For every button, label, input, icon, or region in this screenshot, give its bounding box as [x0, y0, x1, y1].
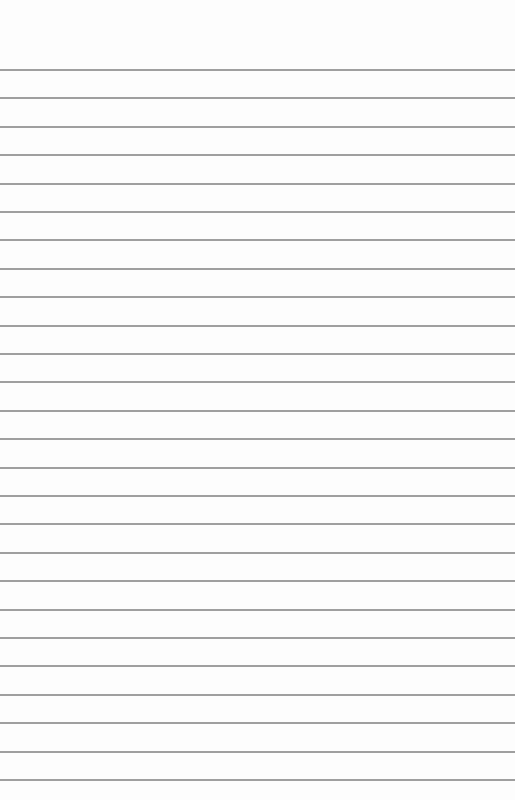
- ruled-line: [0, 410, 515, 412]
- lined-paper-sheet: [0, 0, 515, 800]
- ruled-line: [0, 97, 515, 99]
- ruled-line: [0, 495, 515, 497]
- ruled-line: [0, 154, 515, 156]
- ruled-line: [0, 381, 515, 383]
- ruled-line: [0, 296, 515, 298]
- ruled-line: [0, 779, 515, 781]
- ruled-line: [0, 69, 515, 71]
- ruled-line: [0, 467, 515, 469]
- ruled-line: [0, 751, 515, 753]
- ruled-line: [0, 609, 515, 611]
- ruled-line: [0, 580, 515, 582]
- ruled-line: [0, 665, 515, 667]
- ruled-line: [0, 211, 515, 213]
- ruled-line: [0, 637, 515, 639]
- ruled-line: [0, 325, 515, 327]
- ruled-line: [0, 126, 515, 128]
- ruled-line: [0, 239, 515, 241]
- ruled-line: [0, 694, 515, 696]
- ruled-line: [0, 523, 515, 525]
- ruled-line: [0, 722, 515, 724]
- ruled-line: [0, 183, 515, 185]
- ruled-line: [0, 353, 515, 355]
- ruled-line: [0, 552, 515, 554]
- ruled-line: [0, 268, 515, 270]
- ruled-line: [0, 438, 515, 440]
